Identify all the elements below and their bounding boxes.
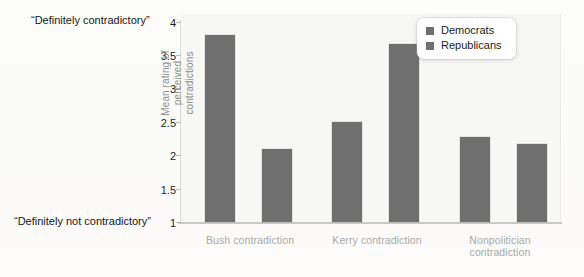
category-label-bush-line1: Bush contradiction [206,234,294,246]
legend-label-republicans: Republicans [441,40,502,51]
y-tick-2: 2 [150,151,176,162]
y-tickmark-2 [176,155,181,156]
bar-kerry-republicans [389,44,419,222]
legend-label-democrats: Democrats [441,25,494,36]
legend-swatch-democrats-icon [426,27,434,35]
legend-item-democrats: Democrats [426,23,502,38]
y-tick-1-5: 1.5 [150,185,176,196]
bar-nonpolitician-republicans [517,144,547,222]
category-label-kerry-line1: Kerry contradiction [332,234,421,246]
legend-swatch-republicans-icon [426,42,434,50]
category-label-nonpolitician-line2: contradiction [437,246,563,258]
y-tickmark-1-5 [176,189,181,190]
bar-nonpolitician-democrats [460,137,490,222]
x-axis-baseline [178,222,562,224]
bar-bush-republicans [262,149,292,222]
category-label-bush: Bush contradiction [185,234,315,246]
y-axis-title-line2: contradictions [184,28,196,138]
scale-anchor-low: “Definitely not contradictory” [14,216,151,227]
bar-kerry-democrats [332,122,362,222]
y-axis-title-line1: Mean rating of perceived [160,28,184,138]
legend-item-republicans: Republicans [426,38,502,53]
category-label-kerry: Kerry contradiction [312,234,442,246]
bar-bush-democrats [205,35,235,222]
category-label-nonpolitician: Nonpolitician contradiction [437,234,563,258]
chart-legend: Democrats Republicans [417,18,516,59]
y-tick-1: 1 [150,218,176,229]
category-label-nonpolitician-line1: Nonpolitician [437,234,563,246]
y-tickmark-4 [176,22,181,23]
y-tickmark-1 [176,222,181,223]
chart-figure: 4 3.5 3 2.5 2 1.5 1 Bush contradiction K… [0,0,584,277]
scale-anchor-high: “Definitely contradictory” [31,15,150,26]
y-axis-title: Mean rating of perceived contradictions [160,28,186,138]
